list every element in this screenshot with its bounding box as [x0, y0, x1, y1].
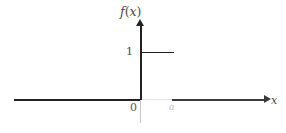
x-axis-right-segment [172, 99, 266, 101]
step-function-figure: f(x) 1 0 a x [0, 0, 286, 133]
y-axis-above-origin [140, 26, 142, 100]
x-axis-left-segment [14, 99, 141, 101]
y-tick-label-one: 1 [126, 46, 133, 57]
origin-label: 0 [130, 102, 137, 113]
step-function-segment [140, 52, 174, 54]
y-axis-below-origin [140, 100, 141, 123]
x-axis-arrowhead-icon [264, 95, 271, 103]
y-axis-label-variable: x [130, 4, 137, 19]
x-tick-label-a: a [169, 103, 174, 112]
y-axis-arrowhead-icon [136, 19, 144, 26]
y-axis-label: f(x) [120, 6, 141, 19]
y-axis-label-close-paren: ) [137, 4, 142, 19]
x-axis-interval-zero-to-a [140, 99, 173, 100]
x-axis-label: x [271, 95, 277, 106]
